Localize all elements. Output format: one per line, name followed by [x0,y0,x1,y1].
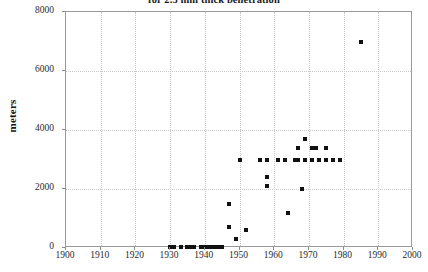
gridline-horizontal [66,130,411,131]
data-point [265,175,269,179]
scatter-chart: for 2.5 mm thick penetration meters 1900… [0,0,428,272]
y-tick-mark [62,247,65,248]
x-tick-mark [377,247,378,250]
data-point [303,158,307,162]
y-tick-mark [62,70,65,71]
data-point [338,158,342,162]
x-tick-mark [343,247,344,250]
data-point [179,245,183,249]
gridline-vertical [240,12,241,246]
x-tick-mark [273,247,274,250]
data-point [227,202,231,206]
x-tick-mark [134,247,135,250]
data-point [300,187,304,191]
data-point [227,225,231,229]
x-tick-mark [239,247,240,250]
x-tick-mark [169,247,170,250]
data-point [317,158,321,162]
data-point [324,146,328,150]
data-point [303,137,307,141]
x-tick-mark [412,247,413,250]
data-point [234,237,238,241]
y-tick-mark [62,129,65,130]
x-tick-mark [100,247,101,250]
gridline-vertical [344,12,345,246]
data-point [286,211,290,215]
data-point [324,158,328,162]
gridline-vertical [101,12,102,246]
y-tick-label: 2000 [8,182,54,192]
y-tick-mark [62,188,65,189]
gridline-vertical [170,12,171,246]
data-point [296,146,300,150]
gridline-vertical [309,12,310,246]
data-point [296,158,300,162]
gridline-vertical [274,12,275,246]
y-tick-label: 0 [8,241,54,251]
data-point [359,40,363,44]
data-point [192,245,196,249]
data-point [244,228,248,232]
data-point [276,158,280,162]
chart-title: for 2.5 mm thick penetration [0,0,428,3]
data-point [265,158,269,162]
gridline-vertical [378,12,379,246]
x-tick-mark [65,247,66,250]
data-point [265,184,269,188]
data-point [331,158,335,162]
data-point [258,158,262,162]
data-point [314,146,318,150]
plot-area [65,11,412,247]
data-point [283,158,287,162]
x-tick-mark [308,247,309,250]
y-tick-label: 4000 [8,123,54,133]
data-point [172,245,176,249]
gridline-vertical [135,12,136,246]
y-tick-mark [62,11,65,12]
y-tick-label: 6000 [8,64,54,74]
data-point [238,158,242,162]
y-tick-label: 8000 [8,5,54,15]
y-axis-label: meters [6,86,18,146]
gridline-horizontal [66,71,411,72]
data-point [220,245,224,249]
gridline-vertical [205,12,206,246]
x-tick-mark [204,247,205,250]
gridline-horizontal [66,189,411,190]
x-tick-label: 2000 [392,250,428,260]
data-point [310,158,314,162]
